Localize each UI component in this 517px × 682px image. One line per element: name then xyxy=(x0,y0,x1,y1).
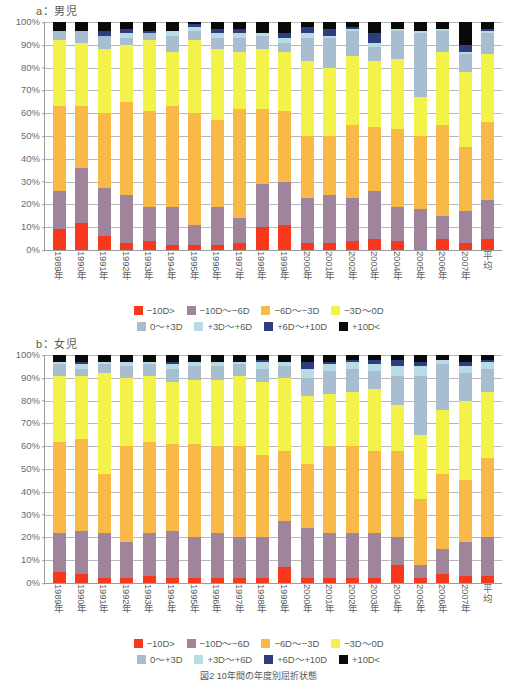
bar-column[interactable] xyxy=(319,355,342,583)
legend-item[interactable]: −3D〜0D xyxy=(331,636,383,650)
stacked-bar[interactable] xyxy=(301,355,314,583)
x-axis-tick-label: 1993年 xyxy=(144,251,154,297)
stacked-bar[interactable] xyxy=(346,22,359,250)
bar-column[interactable] xyxy=(71,22,94,250)
bar-column[interactable] xyxy=(228,355,251,583)
bar-column[interactable] xyxy=(431,22,454,250)
legend-item[interactable]: +6D〜+10D xyxy=(264,652,327,666)
bar-column[interactable] xyxy=(48,22,71,250)
legend-item[interactable]: +10D< xyxy=(339,319,380,333)
stacked-bar[interactable] xyxy=(256,22,269,250)
legend-item[interactable]: −6D〜−3D xyxy=(261,636,319,650)
stacked-bar[interactable] xyxy=(188,22,201,250)
legend-item[interactable]: −3D〜0D xyxy=(331,303,383,317)
legend-item[interactable]: −10D> xyxy=(134,303,175,317)
bar-segment xyxy=(75,531,88,574)
bar-column[interactable] xyxy=(251,22,274,250)
stacked-bar[interactable] xyxy=(436,355,449,583)
stacked-bar[interactable] xyxy=(120,22,133,250)
bar-segment xyxy=(301,528,314,578)
bar-column[interactable] xyxy=(206,355,229,583)
x-axis-tick-label: 1996年 xyxy=(212,584,222,630)
bar-column[interactable] xyxy=(341,22,364,250)
bar-column[interactable] xyxy=(409,355,432,583)
stacked-bar[interactable] xyxy=(414,22,427,250)
bar-column[interactable] xyxy=(454,22,477,250)
stacked-bar[interactable] xyxy=(459,22,472,250)
stacked-bar[interactable] xyxy=(143,355,156,583)
bar-column[interactable] xyxy=(273,355,296,583)
stacked-bar[interactable] xyxy=(211,22,224,250)
bar-column[interactable] xyxy=(206,22,229,250)
stacked-bar[interactable] xyxy=(188,355,201,583)
stacked-bar[interactable] xyxy=(233,22,246,250)
stacked-bar[interactable] xyxy=(436,22,449,250)
stacked-bar[interactable] xyxy=(391,355,404,583)
legend-item[interactable]: 0〜+3D xyxy=(137,652,182,666)
bar-column[interactable] xyxy=(138,22,161,250)
stacked-bar[interactable] xyxy=(98,355,111,583)
bar-column[interactable] xyxy=(273,22,296,250)
bar-column[interactable] xyxy=(409,22,432,250)
stacked-bar[interactable] xyxy=(323,355,336,583)
bar-column[interactable] xyxy=(476,22,499,250)
legend-item[interactable]: +3D〜+6D xyxy=(194,652,252,666)
bar-column[interactable] xyxy=(341,355,364,583)
stacked-bar[interactable] xyxy=(278,22,291,250)
stacked-bar[interactable] xyxy=(459,355,472,583)
stacked-bar[interactable] xyxy=(481,355,494,583)
stacked-bar[interactable] xyxy=(53,355,66,583)
bar-column[interactable] xyxy=(48,355,71,583)
stacked-bar[interactable] xyxy=(143,22,156,250)
stacked-bar[interactable] xyxy=(323,22,336,250)
stacked-bar[interactable] xyxy=(75,22,88,250)
stacked-bar[interactable] xyxy=(278,355,291,583)
stacked-bar[interactable] xyxy=(368,355,381,583)
bar-column[interactable] xyxy=(116,355,139,583)
legend-item[interactable]: −6D〜−3D xyxy=(261,303,319,317)
stacked-bar[interactable] xyxy=(256,355,269,583)
stacked-bar[interactable] xyxy=(75,355,88,583)
bar-column[interactable] xyxy=(319,22,342,250)
bar-column[interactable] xyxy=(183,355,206,583)
bar-column[interactable] xyxy=(93,22,116,250)
bar-column[interactable] xyxy=(386,355,409,583)
bar-column[interactable] xyxy=(228,22,251,250)
stacked-bar[interactable] xyxy=(211,355,224,583)
bar-column[interactable] xyxy=(476,355,499,583)
bar-column[interactable] xyxy=(296,355,319,583)
stacked-bar[interactable] xyxy=(233,355,246,583)
stacked-bar[interactable] xyxy=(346,355,359,583)
legend-item[interactable]: +3D〜+6D xyxy=(194,319,252,333)
legend-item[interactable]: 0〜+3D xyxy=(137,319,182,333)
bar-column[interactable] xyxy=(161,355,184,583)
legend-item[interactable]: −10D〜−6D xyxy=(187,303,250,317)
legend-item[interactable]: +6D〜+10D xyxy=(264,319,327,333)
stacked-bar[interactable] xyxy=(98,22,111,250)
bar-column[interactable] xyxy=(251,355,274,583)
stacked-bar[interactable] xyxy=(391,22,404,250)
stacked-bar[interactable] xyxy=(368,22,381,250)
bar-column[interactable] xyxy=(93,355,116,583)
legend-item[interactable]: −10D> xyxy=(134,636,175,650)
bar-column[interactable] xyxy=(116,22,139,250)
legend-item[interactable]: −10D〜−6D xyxy=(187,636,250,650)
stacked-bar[interactable] xyxy=(414,355,427,583)
stacked-bar[interactable] xyxy=(166,22,179,250)
bar-column[interactable] xyxy=(138,355,161,583)
bar-column[interactable] xyxy=(364,355,387,583)
stacked-bar[interactable] xyxy=(120,355,133,583)
bar-column[interactable] xyxy=(431,355,454,583)
stacked-bar[interactable] xyxy=(481,22,494,250)
stacked-bar[interactable] xyxy=(301,22,314,250)
bar-column[interactable] xyxy=(161,22,184,250)
bar-column[interactable] xyxy=(71,355,94,583)
legend-item[interactable]: +10D< xyxy=(339,652,380,666)
bar-column[interactable] xyxy=(386,22,409,250)
bar-column[interactable] xyxy=(183,22,206,250)
bar-column[interactable] xyxy=(296,22,319,250)
stacked-bar[interactable] xyxy=(53,22,66,250)
bar-column[interactable] xyxy=(364,22,387,250)
bar-column[interactable] xyxy=(454,355,477,583)
stacked-bar[interactable] xyxy=(166,355,179,583)
